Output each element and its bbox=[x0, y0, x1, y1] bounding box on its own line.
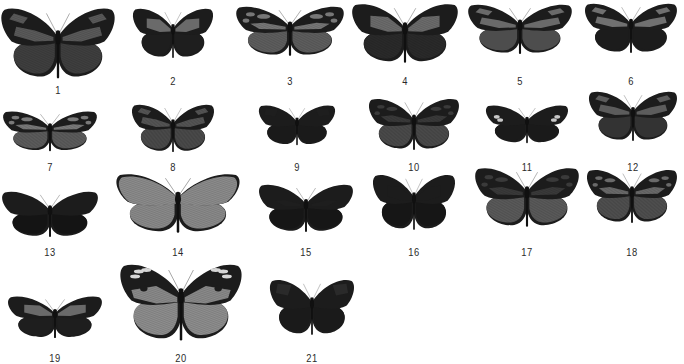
butterfly-icon bbox=[368, 97, 460, 161]
butterfly-icon bbox=[119, 262, 243, 352]
figure-number-label: 19 bbox=[49, 352, 60, 364]
specimen-17 bbox=[474, 166, 580, 228]
butterfly-icon bbox=[131, 103, 215, 163]
specimen-4 bbox=[351, 2, 459, 64]
butterfly-icon bbox=[474, 166, 580, 238]
butterfly-icon bbox=[0, 6, 116, 90]
specimen-6 bbox=[584, 2, 678, 54]
butterfly-icon bbox=[584, 2, 678, 64]
specimen-14 bbox=[115, 172, 241, 234]
butterfly-icon bbox=[115, 172, 241, 244]
butterfly-icon bbox=[485, 104, 569, 154]
specimen-21 bbox=[269, 278, 355, 336]
butterfly-icon bbox=[1, 190, 99, 248]
specimen-12 bbox=[588, 90, 678, 142]
figure-number-label: 21 bbox=[306, 352, 317, 364]
butterfly-icon bbox=[372, 173, 456, 241]
figure-number-label: 6 bbox=[628, 75, 634, 87]
butterfly-icon bbox=[258, 104, 336, 156]
figure-number-label: 14 bbox=[172, 246, 183, 258]
figure-number-label: 20 bbox=[175, 352, 186, 364]
specimen-5 bbox=[467, 3, 573, 55]
butterfly-icon bbox=[7, 295, 103, 349]
butterfly-icon bbox=[351, 2, 459, 74]
specimen-3 bbox=[235, 5, 345, 57]
figure-number-label: 1 bbox=[55, 84, 61, 96]
specimen-7 bbox=[2, 110, 98, 152]
figure-number-label: 16 bbox=[408, 246, 419, 258]
specimen-1 bbox=[0, 6, 116, 80]
figure-number-label: 15 bbox=[300, 246, 311, 258]
specimen-18 bbox=[586, 168, 678, 224]
specimen-9 bbox=[258, 104, 336, 146]
butterfly-icon bbox=[2, 110, 98, 162]
specimen-11 bbox=[485, 104, 569, 144]
specimen-2 bbox=[132, 7, 214, 59]
specimen-20 bbox=[119, 262, 243, 342]
figure-number-label: 10 bbox=[408, 161, 419, 173]
figure-number-label: 7 bbox=[47, 161, 53, 173]
specimen-10 bbox=[368, 97, 460, 151]
figure-number-label: 3 bbox=[287, 75, 293, 87]
specimen-8 bbox=[131, 103, 215, 153]
specimen-13 bbox=[1, 190, 99, 238]
butterfly-icon bbox=[467, 3, 573, 65]
butterfly-icon bbox=[258, 183, 354, 243]
specimen-15 bbox=[258, 183, 354, 233]
figure-number-label: 13 bbox=[44, 246, 55, 258]
figure-number-label: 2 bbox=[170, 75, 176, 87]
figure-number-label: 18 bbox=[626, 246, 637, 258]
butterfly-icon bbox=[588, 90, 678, 152]
figure-number-label: 4 bbox=[402, 75, 408, 87]
butterfly-icon bbox=[269, 278, 355, 346]
figure-number-label: 5 bbox=[517, 75, 523, 87]
butterfly-icon bbox=[586, 168, 678, 234]
butterfly-icon bbox=[235, 5, 345, 67]
figure-number-label: 9 bbox=[294, 161, 300, 173]
figure-number-label: 17 bbox=[521, 246, 532, 258]
specimen-19 bbox=[7, 295, 103, 339]
specimen-16 bbox=[372, 173, 456, 231]
butterfly-specimen-plate: 123456789101112131415161718192021 bbox=[0, 0, 684, 364]
butterfly-icon bbox=[132, 7, 214, 69]
